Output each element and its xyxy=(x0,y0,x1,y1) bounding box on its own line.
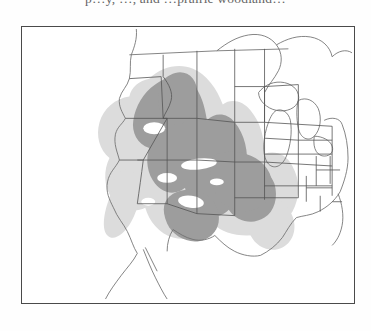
map-frame xyxy=(21,26,355,304)
page-canvas: p…y, …, and …prairie woodland… xyxy=(0,0,371,331)
us-distribution-map xyxy=(22,27,354,303)
clipped-body-text: p…y, …, and …prairie woodland… xyxy=(0,0,371,7)
